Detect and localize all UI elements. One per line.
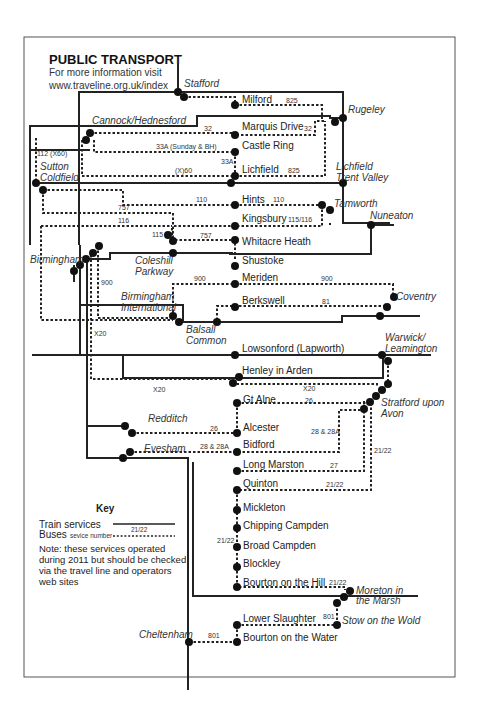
service-900-vertical: 900 bbox=[101, 279, 113, 286]
stop-hints: Hints bbox=[242, 194, 265, 205]
service-x60: (X)60 bbox=[175, 167, 192, 175]
key-note-line1: Note: these services operated bbox=[39, 543, 165, 554]
stop-whitacre-heath: Whitacre Heath bbox=[242, 236, 311, 247]
stop-shustoke: Shustoke bbox=[242, 255, 284, 266]
service-110-b: 110 bbox=[273, 196, 284, 203]
service-757-b: 757 bbox=[200, 232, 212, 239]
station-lichfield-tv-line1: Lichfield bbox=[336, 161, 373, 172]
service-112-x60: 112 (X60) bbox=[37, 150, 67, 158]
service-81: 81 bbox=[322, 298, 330, 305]
stop-marquis-drive: Marquis Drive bbox=[242, 121, 304, 132]
station-balsall-line1: Balsall bbox=[186, 324, 216, 335]
station-bham-int-line1: Birmingham bbox=[121, 291, 174, 302]
service-900-coventry: 900 bbox=[321, 275, 333, 282]
service-825-lichfield: 825 bbox=[288, 167, 300, 174]
stop-meriden: Meriden bbox=[242, 272, 278, 283]
stop-lower-slaughter: Lower Slaughter bbox=[243, 613, 316, 624]
service-801-stow: 801 bbox=[323, 613, 335, 620]
stop-lowsonford: Lowsonford (Lapworth) bbox=[242, 343, 344, 354]
service-33a-sunday: 33A (Sunday & BH) bbox=[156, 143, 217, 151]
stop-castle-ring: Castle Ring bbox=[242, 140, 294, 151]
station-bham-int-line2: International bbox=[121, 302, 177, 313]
service-32-a: 32 bbox=[204, 125, 212, 132]
stop-mickleton: Mickleton bbox=[243, 502, 285, 513]
station-sutton-line1: Sutton bbox=[40, 161, 69, 172]
station-nuneaton: Nuneaton bbox=[370, 210, 414, 221]
station-stratford-line2: Avon bbox=[380, 408, 404, 419]
service-2122-stratford: 21/22 bbox=[374, 447, 392, 454]
service-x20-horizontal: X20 bbox=[153, 386, 166, 393]
stop-berkswell: Berkswell bbox=[242, 295, 285, 306]
service-26-gt-alne: 26 bbox=[305, 397, 313, 404]
service-x20-right: X20 bbox=[303, 385, 316, 392]
station-stafford: Stafford bbox=[184, 78, 219, 89]
station-evesham: Evesham bbox=[144, 443, 186, 454]
transport-map: PUBLIC TRANSPORT For more information vi… bbox=[0, 0, 477, 710]
station-warwick-line2: Leamington bbox=[385, 343, 438, 354]
service-28-bidford: 28 & 28A bbox=[311, 428, 340, 435]
service-33a-vertical: 33A bbox=[221, 158, 234, 165]
stop-bidford: Bidford bbox=[243, 439, 275, 450]
station-redditch: Redditch bbox=[148, 413, 188, 424]
service-2122-bourton-hill: 21/22 bbox=[329, 579, 347, 586]
station-tamworth: Tamworth bbox=[334, 198, 378, 209]
station-warwick-line1: Warwick/ bbox=[385, 332, 427, 343]
station-sutton-line2: Coldfield bbox=[40, 172, 79, 183]
station-coventry: Coventry bbox=[396, 291, 437, 302]
key-note-line3: via the travel line and operators bbox=[39, 565, 172, 576]
stop-blockley: Blockley bbox=[243, 558, 280, 569]
service-825-milford: 825 bbox=[286, 97, 298, 104]
station-balsall-line2: Common bbox=[186, 335, 227, 346]
map-subtitle-line1: For more information visit bbox=[49, 67, 162, 78]
station-stow: Stow on the Wold bbox=[342, 615, 421, 626]
station-coleshill-line2: Parkway bbox=[135, 266, 174, 277]
stop-broad-campden: Broad Campden bbox=[243, 540, 316, 551]
service-28-evesham: 28 & 28A bbox=[200, 443, 229, 450]
service-x20-vertical: X20 bbox=[94, 330, 107, 337]
key-sample-number: 21/22 bbox=[131, 526, 148, 533]
service-26-redditch: 26 bbox=[210, 425, 218, 432]
station-moreton-line2: the Marsh bbox=[356, 595, 401, 606]
map-key: Key Train services Buses sevice number 2… bbox=[38, 503, 186, 587]
stop-henley: Henley in Arden bbox=[242, 365, 313, 376]
service-115-116: 115/116 bbox=[288, 216, 312, 223]
key-bus-label: Buses bbox=[39, 529, 67, 540]
service-801-cheltenham: 801 bbox=[208, 632, 220, 639]
stop-quinton: Quinton bbox=[243, 478, 278, 489]
key-bus-sub: sevice number bbox=[70, 532, 113, 539]
key-note-line2: during 2011 but should be checked bbox=[39, 554, 186, 565]
station-cannock: Cannock/Hednesford bbox=[92, 115, 186, 126]
map-subtitle-link[interactable]: www.traveline.org.uk/index bbox=[48, 80, 168, 91]
service-110-a: 110 bbox=[196, 196, 207, 203]
station-rugeley: Rugeley bbox=[348, 104, 386, 115]
service-32-b: 32 bbox=[304, 125, 312, 132]
service-2122-quinton: 21/22 bbox=[326, 481, 344, 488]
service-757-a: 757 bbox=[118, 204, 130, 211]
stop-milford: Milford bbox=[242, 94, 272, 105]
map-title: PUBLIC TRANSPORT bbox=[49, 52, 182, 67]
station-birmingham: Birmingham bbox=[30, 254, 83, 265]
stop-kingsbury: Kingsbury bbox=[242, 213, 286, 224]
key-note-line4: web sites bbox=[38, 576, 79, 587]
station-coleshill-line1: Coleshill bbox=[135, 255, 174, 266]
station-lichfield-tv-line2: Trent Valley bbox=[336, 172, 389, 183]
station-cheltenham: Cheltenham bbox=[139, 629, 193, 640]
stop-gt-alne: Gt Alne bbox=[243, 394, 276, 405]
service-2122-chipping: 21/22 bbox=[217, 537, 235, 544]
key-title: Key bbox=[96, 503, 115, 514]
stop-bourton-hill: Bourton on the Hill bbox=[243, 577, 325, 588]
service-900-meriden: 900 bbox=[194, 275, 206, 282]
stop-chipping-campden: Chipping Campden bbox=[243, 520, 329, 531]
service-27: 27 bbox=[330, 462, 338, 469]
stop-long-marston: Long Marston bbox=[243, 459, 304, 470]
stop-bourton-water: Bourton on the Water bbox=[243, 632, 338, 643]
service-115: 115 bbox=[152, 231, 163, 238]
stop-alcester: Alcester bbox=[243, 422, 280, 433]
station-stratford-line1: Stratford upon bbox=[381, 397, 445, 408]
service-116: 116 bbox=[118, 217, 129, 224]
stop-lichfield: Lichfield bbox=[242, 164, 279, 175]
